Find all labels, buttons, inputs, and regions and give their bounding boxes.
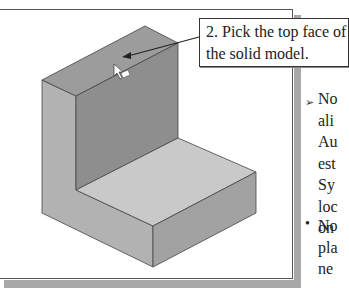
side-text-line: No: [318, 88, 338, 110]
side-text-line: No: [318, 215, 338, 237]
callout-box: 2. Pick the top face of the solid model.: [199, 18, 349, 67]
callout-line-1: 2. Pick the top face of: [206, 21, 348, 43]
dot-bullet-icon: •: [305, 216, 310, 232]
arrow-bullet-icon: ➢: [305, 96, 314, 109]
side-text-line: loc: [318, 196, 338, 218]
side-text-line: Au: [318, 131, 338, 153]
side-text-line: ali: [318, 110, 338, 132]
side-text-line: Sy: [318, 174, 338, 196]
side-text-line: ne: [318, 258, 338, 280]
side-paragraph-2: No pla ne: [318, 215, 338, 280]
side-text-line: est: [318, 153, 338, 175]
callout-line-2: the solid model.: [206, 43, 348, 65]
side-text-line: pla: [318, 237, 338, 259]
